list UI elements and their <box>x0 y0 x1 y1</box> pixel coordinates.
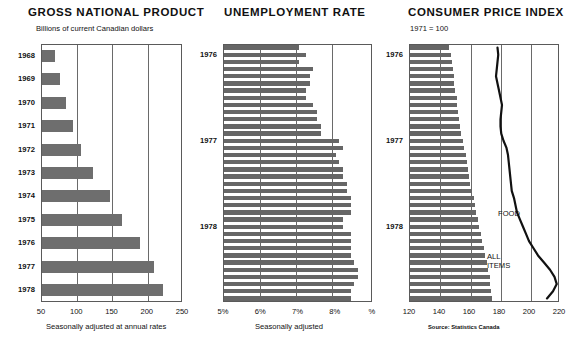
figure-root: GROSS NATIONAL PRODUCT Billions of curre… <box>0 0 568 357</box>
cpi-year-label: 1978 <box>373 222 403 231</box>
cpi-all-items-label-line2: ITEMS <box>487 262 510 271</box>
cpi-food-label: FOOD <box>498 210 520 219</box>
cpi-x-tick: 120 <box>403 307 416 316</box>
cpi-x-tick: 200 <box>523 307 536 316</box>
cpi-x-tick: 180 <box>493 307 506 316</box>
cpi-x-tick: 220 <box>553 307 566 316</box>
cpi-year-label: 1977 <box>373 136 403 145</box>
cpi-food-line-svg <box>0 0 568 357</box>
cpi-x-tick: 140 <box>433 307 446 316</box>
cpi-year-label: 1976 <box>373 50 403 59</box>
cpi-source: Source: Statistics Canada <box>428 324 500 330</box>
cpi-x-tick: 160 <box>463 307 476 316</box>
